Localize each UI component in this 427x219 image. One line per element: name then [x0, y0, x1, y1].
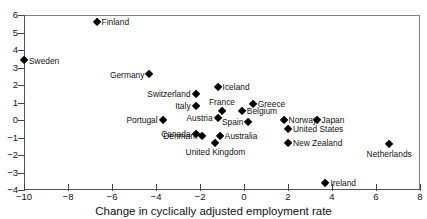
y-axis-tick-label: 6 — [0, 10, 18, 20]
y-axis-tick — [18, 15, 25, 16]
x-axis-tick — [68, 184, 69, 191]
data-point-label: Austria — [187, 114, 213, 122]
y-axis-tick-label: 1 — [0, 98, 18, 108]
x-axis-tick-label: 0 — [232, 192, 256, 202]
y-axis-tick-label: 4 — [0, 45, 18, 55]
y-axis-tick — [18, 138, 25, 139]
x-axis-tick — [420, 184, 421, 191]
y-axis-tick — [18, 68, 25, 69]
x-axis-tick-label: −2 — [188, 192, 212, 202]
y-axis-tick — [18, 103, 25, 104]
data-point-label: Switzerland — [147, 90, 190, 98]
y-axis-tick-label: −3 — [0, 168, 18, 178]
y-axis-tick-label: 5 — [0, 28, 18, 38]
data-point-label: Sweden — [29, 57, 59, 65]
y-axis-tick — [18, 120, 25, 121]
data-point-label: Finland — [102, 18, 129, 26]
y-axis-tick — [18, 33, 25, 34]
x-axis-tick-label: 8 — [408, 192, 427, 202]
x-axis-tick — [156, 184, 157, 191]
y-axis-tick-label: −2 — [0, 150, 18, 160]
data-point-label: Germany — [110, 71, 144, 79]
x-axis-tick-label: 2 — [276, 192, 300, 202]
x-axis-tick — [112, 184, 113, 191]
data-point-label: Iceland — [223, 83, 250, 91]
data-point-label: Portugal — [126, 116, 157, 124]
y-axis-tick-label: 0 — [0, 115, 18, 125]
x-axis-tick-label: −8 — [56, 192, 80, 202]
data-point-label: Denmark — [163, 132, 197, 140]
data-point-label: France — [209, 98, 235, 106]
data-point-label: Ireland — [330, 179, 356, 187]
x-axis-tick-label: 6 — [364, 192, 388, 202]
x-axis-tick-label: −4 — [144, 192, 168, 202]
x-axis-tick — [288, 184, 289, 191]
y-axis-tick — [18, 50, 25, 51]
x-axis-title: Change in cyclically adjusted employment… — [0, 205, 427, 217]
y-axis-tick-label: 2 — [0, 80, 18, 90]
x-axis-tick-label: −6 — [100, 192, 124, 202]
data-point-label: New Zealand — [293, 139, 342, 147]
y-axis-tick — [18, 155, 25, 156]
x-axis-tick — [244, 184, 245, 191]
scatter-chart: −4−3−2−10123456 −10−8−6−4−202468 Finland… — [0, 0, 427, 219]
y-axis-tick — [18, 85, 25, 86]
x-axis-tick-label: 4 — [320, 192, 344, 202]
data-point-label: Italy — [175, 102, 190, 110]
data-point-label: Spain — [222, 118, 243, 126]
y-axis-tick — [18, 173, 25, 174]
y-axis-tick-label: 3 — [0, 63, 18, 73]
x-axis-tick — [200, 184, 201, 191]
data-point-label: Belgium — [247, 107, 277, 115]
data-point-label: United Kingdom — [186, 148, 246, 156]
x-axis-tick-label: −10 — [12, 192, 36, 202]
x-axis-tick — [24, 184, 25, 191]
y-axis-tick-label: −1 — [0, 133, 18, 143]
data-point-label: Australia — [225, 132, 258, 140]
x-axis-tick — [376, 184, 377, 191]
data-point-label: Netherlands — [367, 150, 412, 158]
data-point-label: United States — [293, 125, 343, 133]
